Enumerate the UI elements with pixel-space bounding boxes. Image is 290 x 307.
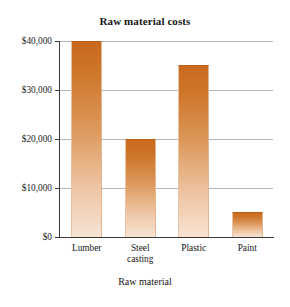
bar-fill xyxy=(125,139,156,237)
plot-area: $40,000$30,000$20,000$10,000$0 xyxy=(59,41,273,238)
bar-steel-casting xyxy=(125,139,156,237)
y-tick-mark xyxy=(55,139,59,140)
y-tick-mark xyxy=(55,90,59,91)
top-sliver-text: ·· · · · xyxy=(135,0,155,3)
y-tick-mark xyxy=(55,188,59,189)
chart-title: Raw material costs xyxy=(0,15,290,27)
bar-fill xyxy=(178,65,209,237)
bar-plastic xyxy=(178,65,209,237)
x-tick-label-line: Steel xyxy=(131,243,150,253)
bar-paint xyxy=(232,212,263,237)
y-tick-mark xyxy=(55,41,59,42)
y-tick-mark xyxy=(55,237,59,238)
x-tick-label-line: casting xyxy=(106,254,174,265)
x-tick-label: Paint xyxy=(213,243,281,254)
y-tick-label: $40,000 xyxy=(5,36,52,46)
y-tick-label: $10,000 xyxy=(5,183,52,193)
x-tick-label-line: Paint xyxy=(238,243,257,253)
y-tick-label: $30,000 xyxy=(5,85,52,95)
bar-lumber xyxy=(71,41,102,237)
y-tick-label: $0 xyxy=(5,232,52,242)
bar-fill xyxy=(71,41,102,237)
x-axis-line xyxy=(59,237,274,238)
page-top-text-sliver: ·· · · · xyxy=(0,0,290,7)
bar-chart-figure: ·· · · · Raw material costs $40,000$30,0… xyxy=(0,0,290,307)
x-tick-label-line: Lumber xyxy=(72,243,101,253)
y-tick-label: $20,000 xyxy=(5,134,52,144)
x-axis-title: Raw material xyxy=(0,276,290,287)
bar-fill xyxy=(232,212,263,237)
x-tick-label-line: Plastic xyxy=(181,243,206,253)
